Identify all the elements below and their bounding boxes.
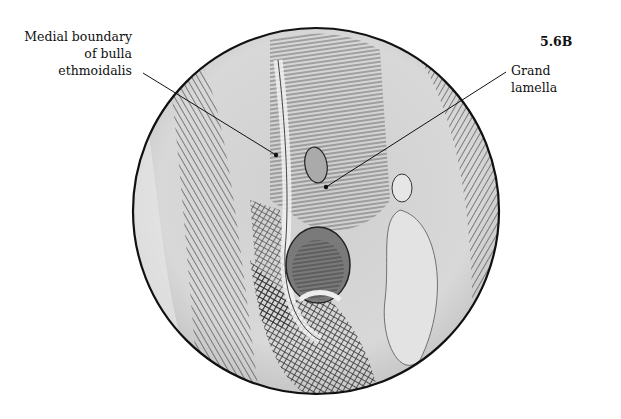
endoscopic-illustration — [0, 0, 621, 419]
pointer-dot-grand-lamella — [324, 185, 328, 189]
pointer-dot-medial-boundary — [274, 153, 278, 157]
